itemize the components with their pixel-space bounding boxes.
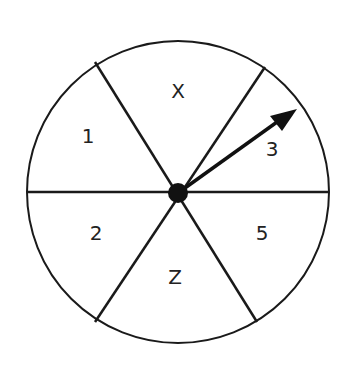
svg-text:1: 1 bbox=[82, 124, 95, 148]
svg-text:Z: Z bbox=[168, 265, 182, 289]
svg-text:3: 3 bbox=[266, 137, 279, 161]
svg-text:5: 5 bbox=[256, 221, 269, 245]
svg-text:X: X bbox=[171, 79, 185, 103]
section-label-2: 2 bbox=[90, 221, 103, 245]
section-label-z: Z bbox=[168, 265, 182, 289]
section-label-1: 1 bbox=[82, 124, 95, 148]
section-label-x: X bbox=[171, 79, 185, 103]
section-label-3: 3 bbox=[266, 137, 279, 161]
section-label-5: 5 bbox=[256, 221, 269, 245]
svg-text:2: 2 bbox=[90, 221, 103, 245]
spinner-diagram: X 1 3 2 5 Z bbox=[0, 0, 349, 368]
spinner-hub bbox=[168, 183, 188, 203]
